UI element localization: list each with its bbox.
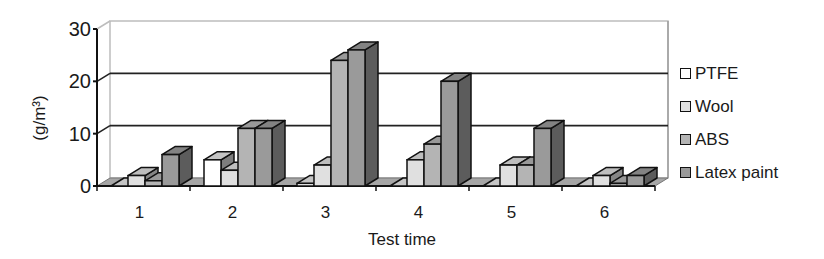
y-tick-label: 0: [80, 175, 91, 197]
legend-label: Wool: [695, 97, 733, 117]
x-axis-label: Test time: [0, 230, 824, 250]
legend-swatch-wool: [680, 101, 691, 112]
y-tick-label: 20: [69, 70, 91, 92]
y-tick-label: 10: [69, 123, 91, 145]
legend-item-ptfe: PTFE: [680, 57, 778, 90]
bar-latex-paint: [162, 147, 192, 186]
bar-latex-paint: [255, 120, 285, 186]
x-axis-title: Test time: [368, 230, 436, 249]
legend-label: PTFE: [695, 64, 738, 84]
y-axis-label: (g/m³): [30, 88, 50, 148]
legend-item-abs: ABS: [680, 123, 778, 156]
x-tick-label: 3: [321, 203, 330, 222]
bar-latex-paint: [441, 73, 471, 186]
legend-swatch-abs: [680, 134, 691, 145]
legend: PTFE Wool ABS Latex paint: [680, 57, 778, 189]
bar-latex-paint: [348, 42, 378, 186]
legend-label: ABS: [695, 130, 729, 150]
bar-latex-paint: [534, 120, 564, 186]
x-tick-label: 5: [507, 203, 516, 222]
x-tick-label: 2: [228, 203, 237, 222]
legend-item-wool: Wool: [680, 90, 778, 123]
back-wall: [110, 21, 668, 178]
x-tick-label: 6: [600, 203, 609, 222]
legend-swatch-latex-paint: [680, 167, 691, 178]
y-tick-label: 30: [69, 18, 91, 40]
legend-swatch-ptfe: [680, 68, 691, 79]
x-tick-label: 1: [135, 203, 144, 222]
legend-item-latex-paint: Latex paint: [680, 156, 778, 189]
legend-label: Latex paint: [695, 163, 778, 183]
x-tick-label: 4: [414, 203, 423, 222]
